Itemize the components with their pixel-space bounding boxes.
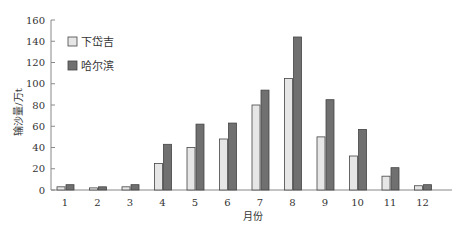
bar-harbin — [99, 187, 107, 190]
bar-harbin — [359, 129, 367, 190]
bar-harbin — [326, 100, 334, 190]
bar-harbin — [424, 185, 432, 190]
bar-xiadaiji — [220, 139, 228, 190]
x-tick-label: 3 — [127, 197, 133, 208]
y-tick-label: 40 — [32, 142, 45, 153]
bar-xiadaiji — [382, 176, 390, 190]
x-tick-label: 6 — [224, 197, 230, 208]
legend-label: 哈尔滨 — [81, 59, 114, 73]
y-tick-label: 100 — [26, 78, 45, 89]
x-axis-title: 月份 — [243, 211, 263, 222]
bar-xiadaiji — [155, 163, 163, 190]
bar-xiadaiji — [415, 186, 423, 190]
bar-harbin — [164, 144, 172, 190]
bar-xiadaiji — [122, 187, 130, 190]
bar-harbin — [66, 185, 74, 190]
legend-label: 下岱吉 — [81, 35, 114, 49]
bar-harbin — [196, 124, 204, 190]
bar-harbin — [131, 185, 139, 190]
y-tick-label: 60 — [32, 121, 45, 132]
bar-harbin — [294, 37, 302, 190]
bar-xiadaiji — [57, 187, 65, 190]
x-tick-label: 12 — [416, 197, 429, 208]
x-tick-label: 1 — [62, 197, 68, 208]
bar-chart: 020406080100120140160 123456789101112 下岱… — [0, 0, 456, 234]
x-axis: 123456789101112 — [51, 190, 452, 208]
bar-xiadaiji — [252, 105, 260, 190]
y-tick-label: 20 — [32, 163, 45, 174]
bar-xiadaiji — [285, 78, 293, 190]
x-tick-label: 5 — [192, 197, 198, 208]
legend-swatch — [68, 61, 77, 70]
bar-harbin — [229, 123, 237, 190]
x-tick-label: 10 — [351, 197, 364, 208]
bar-xiadaiji — [90, 188, 98, 190]
x-tick-label: 8 — [289, 197, 295, 208]
x-tick-label: 9 — [322, 197, 328, 208]
y-tick-label: 0 — [39, 185, 45, 196]
bar-xiadaiji — [350, 156, 358, 190]
bar-xiadaiji — [317, 137, 325, 190]
x-tick-label: 11 — [384, 197, 397, 208]
bar-harbin — [391, 168, 399, 190]
y-tick-label: 160 — [26, 15, 45, 26]
y-axis: 020406080100120140160 — [26, 15, 55, 196]
legend: 下岱吉哈尔滨 — [68, 35, 114, 73]
y-tick-label: 120 — [26, 57, 45, 68]
y-tick-label: 80 — [32, 100, 45, 111]
y-axis-title: 输沙量/万t — [12, 88, 24, 135]
bar-xiadaiji — [187, 148, 195, 191]
x-tick-label: 4 — [159, 197, 165, 208]
x-tick-label: 2 — [94, 197, 100, 208]
bar-harbin — [261, 90, 269, 190]
legend-swatch — [68, 37, 77, 46]
y-tick-label: 140 — [26, 36, 45, 47]
x-tick-label: 7 — [257, 197, 263, 208]
